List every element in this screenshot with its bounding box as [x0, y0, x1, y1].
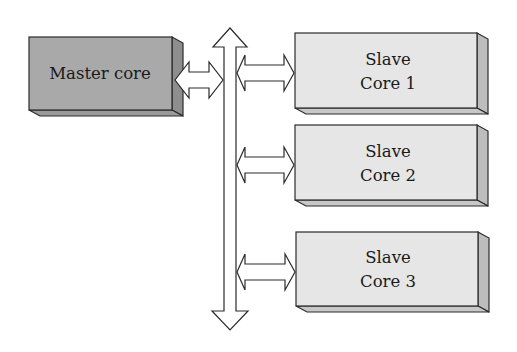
bus-slave-2-connector-arrow [237, 147, 294, 183]
slave-core-3-bottom [296, 306, 489, 312]
slave-core-1-label-line2: Core 1 [360, 74, 416, 93]
bus-slave-3-connector-arrow [237, 254, 295, 290]
slave-core-3-label-line2: Core 3 [360, 272, 416, 291]
slave-core-2-side [477, 125, 488, 206]
slave-core-3-side [478, 232, 489, 312]
slave-core-3-block: Slave Core 3 [296, 232, 489, 312]
slave-core-2-label-line1: Slave [365, 142, 411, 161]
master-core-bottom [29, 110, 183, 116]
master-core-label: Master core [49, 64, 151, 83]
slave-core-2-front [295, 125, 477, 200]
slave-core-1-label-line1: Slave [365, 50, 411, 69]
slave-core-1-side [477, 33, 488, 114]
slave-core-1-front [295, 33, 477, 108]
slave-core-2-block: Slave Core 2 [295, 125, 488, 206]
master-core-block: Master core [29, 37, 183, 116]
slave-core-1-bottom [295, 108, 488, 114]
slave-core-3-label-line1: Slave [365, 248, 411, 267]
bus-slave-1-connector-arrow [237, 55, 294, 91]
multicore-diagram: Master core Slave Core 1 Slave Core 2 Sl… [0, 0, 517, 352]
slave-core-2-bottom [295, 200, 488, 206]
slave-core-1-block: Slave Core 1 [295, 33, 488, 114]
slave-core-2-label-line2: Core 2 [360, 166, 416, 185]
slave-core-3-front [296, 232, 478, 306]
